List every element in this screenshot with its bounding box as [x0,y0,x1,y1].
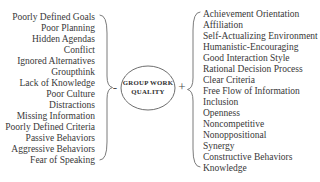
factor-item: Rational Decision Process [203,64,318,75]
center-label-line1: GROUP WORK [123,79,174,88]
factor-item: Knowledge [203,163,318,174]
factor-item: Ignored Alternatives [0,56,95,67]
factor-item: Good Interaction Style [203,53,318,64]
factor-item: Clear Criteria [203,75,318,86]
factor-item: Inclusion [203,97,318,108]
factor-item: Missing Information [0,111,95,122]
positive-brace-icon [186,11,201,172]
factor-item: Humanistic-Encouraging [203,42,318,53]
center-node: GROUP WORK QUALITY [120,65,176,111]
center-node-label: GROUP WORK QUALITY [120,65,176,111]
factor-item: Poorly Defined Goals [0,12,95,23]
positive-factors-list: Achievement OrientationAffiliationSelf-A… [203,9,318,174]
factor-item: Distractions [0,100,95,111]
factor-item: Poor Planning [0,23,95,34]
factor-item: Groupthink [0,67,95,78]
factor-item: Hidden Agendas [0,34,95,45]
factor-item: Poorly Defined Criteria [0,122,95,133]
factor-item: Synergy [203,141,318,152]
factor-item: Lack of Knowledge [0,78,95,89]
factor-item: Nonoppositional [203,130,318,141]
factor-item: Poor Culture [0,89,95,100]
factor-item: Passive Behaviors [0,133,95,144]
factor-item: Self-Actualizing Environment [203,31,318,42]
negative-factors-list: Poorly Defined GoalsPoor PlanningHidden … [0,12,95,166]
factor-item: Free Flow of Information [203,86,318,97]
factor-item: Constructive Behaviors [203,152,318,163]
factor-item: Fear of Speaking [0,155,95,166]
factor-item: Conflict [0,45,95,56]
center-label-line2: QUALITY [131,88,164,97]
factor-item: Openness [203,108,318,119]
factor-item: Aggressive Behaviors [0,144,95,155]
factor-item: Affiliation [203,20,318,31]
group-work-quality-diagram: Poorly Defined GoalsPoor PlanningHidden … [0,0,320,182]
factor-item: Achievement Orientation [203,9,318,20]
factor-item: Noncompetitive [203,119,318,130]
